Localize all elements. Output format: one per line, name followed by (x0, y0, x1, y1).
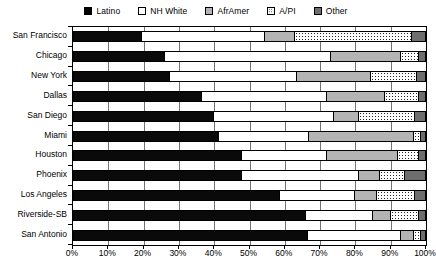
x-axis-tick-label: 50% (240, 249, 257, 258)
y-axis-tick (68, 185, 72, 186)
x-axis-tick-label: 0% (66, 249, 78, 258)
x-axis-tick (319, 245, 320, 249)
legend-label: NH White (150, 7, 187, 16)
y-axis-tick (68, 105, 72, 106)
x-axis-tick-label: 80% (346, 249, 363, 258)
y-axis-tick (68, 224, 72, 225)
chart-legend: LatinoNH WhiteAfrAmerA/PIOther (0, 0, 432, 22)
legend-item-nh-white: NH White (138, 7, 187, 16)
y-axis-label-dallas: Dallas (0, 91, 67, 100)
x-axis-tick-label: 100% (414, 249, 436, 258)
y-axis-tick (68, 26, 72, 27)
x-axis-tick (178, 245, 179, 249)
x-axis-labels: 0%10%20%30%40%50%60%70%80%90%100% (0, 249, 432, 263)
api-swatch (267, 7, 275, 15)
y-axis-label-chicago: Chicago (0, 51, 67, 60)
y-axis-tick (68, 145, 72, 146)
y-axis-label-houston: Houston (0, 150, 67, 159)
y-axis-tick (68, 66, 72, 67)
y-axis-label-los-angeles: Los Angeles (0, 190, 67, 199)
y-axis-label-san-diego: San Diego (0, 111, 67, 120)
y-axis-label-san-francisco: San Francisco (0, 31, 67, 40)
y-axis-label-riverside-sb: Riverside-SB (0, 210, 67, 219)
legend-label: A/PI (279, 7, 295, 16)
legend-item-latino: Latino (84, 7, 120, 16)
x-axis-tick (143, 245, 144, 249)
legend-label: Latino (96, 7, 120, 16)
x-axis-tick (354, 245, 355, 249)
y-axis-label-san-antonio: San Antonio (0, 230, 67, 239)
legend-item-a-pi: A/PI (267, 7, 295, 16)
x-axis-tick-label: 20% (134, 249, 151, 258)
legend-item-other: Other (314, 7, 348, 16)
x-axis-tick-label: 60% (275, 249, 292, 258)
y-axis-label-new-york: New York (0, 71, 67, 80)
x-axis-tick-label: 90% (381, 249, 398, 258)
x-axis-tick (249, 245, 250, 249)
y-axis-tick (68, 165, 72, 166)
latino-swatch (84, 7, 92, 15)
y-axis-tick (68, 85, 72, 86)
nh-white-swatch (138, 7, 146, 15)
aframer-swatch (205, 7, 213, 15)
y-axis-tick (68, 46, 72, 47)
y-axis-tick (68, 204, 72, 205)
x-axis-tick-label: 10% (99, 249, 116, 258)
legend-label: AfrAmer (217, 7, 249, 16)
y-axis-label-miami: Miami (0, 131, 67, 140)
x-axis-tick (72, 245, 73, 249)
y-axis-tick (68, 125, 72, 126)
x-axis-tick-label: 70% (311, 249, 328, 258)
x-axis-tick (284, 245, 285, 249)
legend-item-aframer: AfrAmer (205, 7, 249, 16)
y-axis-labels: San FranciscoChicagoNew YorkDallasSan Di… (0, 26, 432, 244)
x-axis-tick (213, 245, 214, 249)
x-axis-tick (390, 245, 391, 249)
x-axis-tick-label: 30% (169, 249, 186, 258)
x-axis-tick-label: 40% (205, 249, 222, 258)
x-axis-tick (425, 245, 426, 249)
x-axis-tick (107, 245, 108, 249)
other-swatch (314, 7, 322, 15)
legend-label: Other (326, 7, 348, 16)
y-axis-label-phoenix: Phoenix (0, 170, 67, 179)
